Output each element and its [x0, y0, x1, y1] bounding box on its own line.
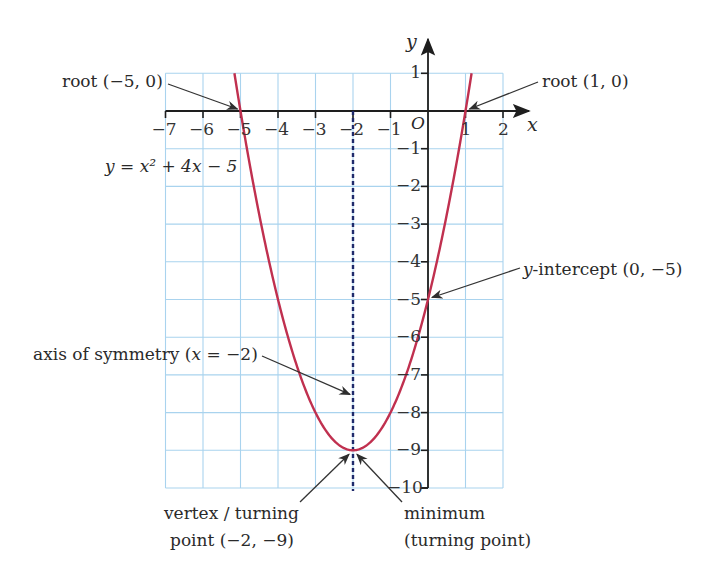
y-tick-label: −1 — [387, 140, 421, 157]
quadratic-graph-figure: −7−6−5−4−3−2−1121−1−2−3−4−5−6−7−8−9−10 y… — [0, 0, 717, 573]
axis-sym-post: = −2) — [201, 344, 258, 364]
minimum-label-line2: (turning point) — [404, 532, 531, 549]
y-tick-label: −5 — [387, 291, 421, 308]
equation-label: y = x² + 4x − 5 — [105, 158, 237, 175]
y-tick-label: −3 — [387, 215, 421, 232]
y-tick-label: −9 — [387, 441, 421, 458]
x-tick-label: 1 — [461, 121, 472, 138]
y-tick-label: −4 — [387, 253, 421, 270]
x-tick-label: −3 — [302, 121, 327, 138]
x-axis-label: x — [527, 115, 538, 134]
y-tick-label: 1 — [387, 64, 421, 81]
y-tick-label: −6 — [387, 328, 421, 345]
y-tick-label: −7 — [387, 366, 421, 383]
minimum-label-line1: minimum — [404, 505, 485, 522]
x-tick-label: −6 — [189, 121, 214, 138]
axis-of-symmetry-label: axis of symmetry (x = −2) — [33, 346, 258, 363]
x-tick-label: 2 — [498, 121, 509, 138]
x-tick-label: −7 — [152, 121, 177, 138]
x-tick-label: −2 — [339, 121, 364, 138]
y-tick-label: −10 — [387, 479, 421, 496]
y-intercept-text: -intercept (0, −5) — [533, 259, 683, 279]
axis-sym-x: x — [191, 344, 201, 364]
axis-sym-pre: axis of symmetry ( — [33, 344, 191, 364]
vertex-label-line2: point (−2, −9) — [170, 532, 294, 549]
y-tick-label: −2 — [387, 177, 421, 194]
grid-lines — [166, 73, 504, 488]
x-tick-label: −5 — [227, 121, 252, 138]
y-axis-label: y — [406, 32, 417, 51]
root-right-label: root (1, 0) — [542, 73, 629, 90]
equation-text: y = x² + 4x − 5 — [105, 156, 237, 176]
root-left-label: root (−5, 0) — [62, 73, 163, 90]
origin-label: O — [411, 115, 425, 132]
y-tick-label: −8 — [387, 404, 421, 421]
x-tick-label: −4 — [264, 121, 289, 138]
x-tick-label: −1 — [377, 121, 402, 138]
vertex-label-line1: vertex / turning — [164, 505, 299, 522]
y-intercept-italic: y — [523, 259, 533, 279]
y-intercept-label: y-intercept (0, −5) — [523, 261, 682, 278]
